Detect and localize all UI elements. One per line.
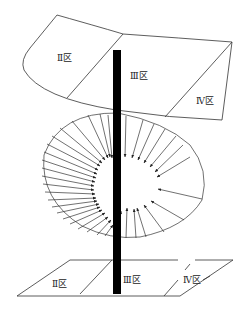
- top-zone-ii-label: Ⅱ区: [57, 53, 72, 63]
- inward-arrows: [42, 114, 202, 238]
- bottom-divider-iii-iv-bottom: [164, 280, 178, 296]
- spiral-vortex: [42, 113, 204, 238]
- zone-diagram: Ⅱ区 Ⅲ区 Ⅳ区: [0, 0, 245, 309]
- bottom-zone-iv-label: Ⅳ区: [183, 275, 201, 285]
- top-zone-iv-label: Ⅳ区: [196, 96, 214, 106]
- top-zone-iii-label: Ⅲ区: [130, 71, 148, 81]
- bottom-left-edge: [17, 260, 70, 296]
- bottom-zone-ii-label: Ⅱ区: [52, 279, 67, 289]
- bottom-zone-iii-label: Ⅲ区: [123, 275, 141, 285]
- bottom-iv-tick: [203, 276, 210, 280]
- spiral-outline: [44, 113, 205, 238]
- bottom-divider-ii-iii: [80, 260, 112, 294]
- vertical-axis: [113, 50, 121, 294]
- bottom-divider-iii-iv-top: [185, 264, 190, 270]
